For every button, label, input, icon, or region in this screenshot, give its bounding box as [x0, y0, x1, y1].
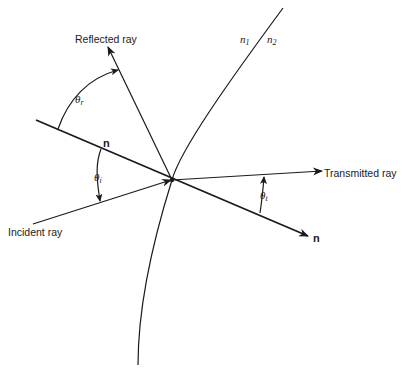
- medium1-label: n1: [240, 33, 250, 47]
- theta-r-arc: [58, 70, 118, 129]
- reflected-ray-label: Reflected ray: [75, 33, 138, 45]
- normal-label-upper: n: [103, 137, 110, 149]
- normal-label-lower: n: [313, 232, 320, 244]
- theta-r-label: θr: [75, 93, 84, 107]
- incidence-point: [170, 178, 174, 182]
- ray-diagram: Reflected ray Incident ray Transmitted r…: [0, 0, 402, 372]
- incident-ray-line: [33, 180, 171, 224]
- transmitted-ray-label: Transmitted ray: [324, 167, 397, 179]
- theta-i-label: θi: [94, 171, 102, 185]
- medium2-label: n2: [267, 33, 277, 47]
- incident-ray-label: Incident ray: [8, 226, 63, 238]
- reflected-ray-line: [108, 47, 172, 180]
- interface-curve: [138, 8, 283, 365]
- transmitted-ray-line: [172, 171, 322, 180]
- theta-t-label: θt: [260, 189, 268, 203]
